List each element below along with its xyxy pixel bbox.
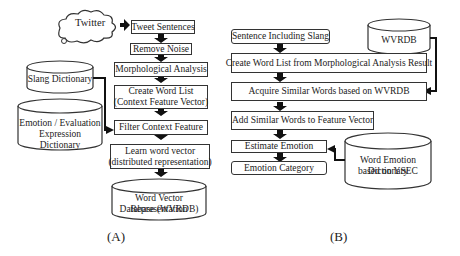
step-filter-context-feature: Filter Context Feature [114, 120, 208, 135]
step-remove-noise: Remove Noise [130, 43, 192, 55]
caption-b: (B) [330, 229, 347, 245]
step-line: Learn word vector [125, 146, 195, 157]
step-tweet-sentences: Tweet Sentences [131, 20, 195, 34]
wvrdb-label-b: WVRDB [368, 35, 430, 49]
step-line: (Context Feature Vector) [114, 97, 208, 108]
emotion-dictionary-label: Emotion / Evaluation Expression Dictiona… [18, 118, 102, 142]
step-create-word-list: Create Word List (Context Feature Vector… [114, 85, 208, 109]
step-morphological-analysis: Morphological Analysis [114, 62, 208, 77]
step-emotion-category: Emotion Category [231, 161, 327, 175]
caption-a: (A) [107, 229, 125, 245]
step-sentence-including-slang: Sentence Including Slang [231, 29, 330, 44]
step-learn-word-vector: Learn word vector (distributed represent… [110, 144, 210, 169]
step-line: (distributed representation) [108, 157, 211, 168]
step-add-similar-words: Add Similar Words to Feature Vector [231, 111, 374, 130]
word-emotion-dictionary-label: Word Emotion Dictionary based on YSEC [345, 155, 431, 179]
twitter-label: Twitter [75, 17, 105, 28]
step-acquire-similar-words: Acquire Similar Words based on WVRDB [231, 82, 427, 101]
step-estimate-emotion: Estimate Emotion [231, 140, 327, 153]
step-line: Create Word List [128, 86, 193, 97]
step-create-word-list-b: Create Word List from Morphological Anal… [231, 53, 427, 73]
slang-dictionary-label: Slang Dictionary [27, 74, 93, 88]
wvrdb-output-label: Word Vector Representation Database (WVR… [112, 193, 206, 217]
